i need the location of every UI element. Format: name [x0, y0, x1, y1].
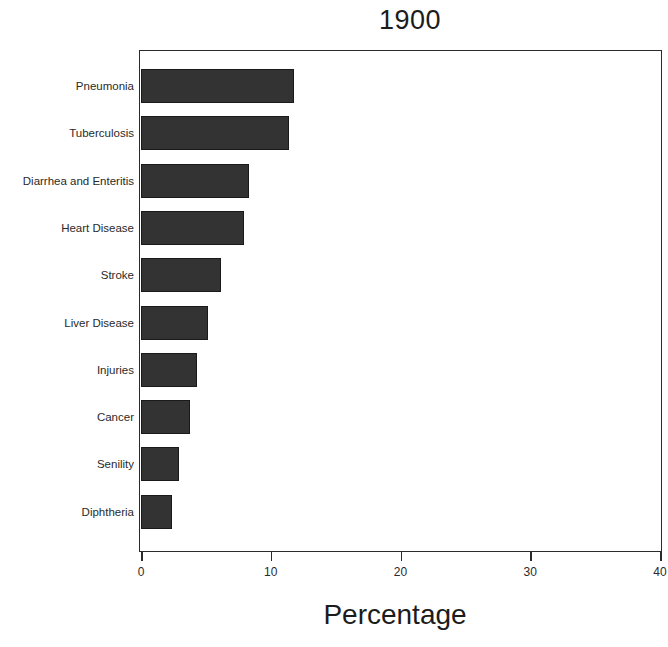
bar-rect: [141, 164, 249, 198]
bar-pneumonia: [141, 69, 660, 103]
bar-rect: [141, 400, 190, 434]
x-axis-title-text: Percentage: [323, 599, 466, 630]
x-tick-mark: [530, 552, 532, 561]
bar-tuberculosis: [141, 116, 660, 150]
x-tick-mark: [271, 552, 273, 561]
x-axis-ticks: 010203040: [0, 552, 668, 592]
x-tick-mark: [660, 552, 662, 561]
x-tick-label: 40: [640, 565, 668, 579]
x-tick-mark: [141, 552, 143, 561]
bar-rect: [141, 495, 172, 529]
bar-rect: [141, 69, 294, 103]
bar-cancer: [141, 400, 660, 434]
chart-title: 1900: [0, 4, 668, 36]
y-axis-label: Cancer: [0, 410, 134, 424]
y-axis-label: Liver Disease: [0, 316, 134, 330]
y-axis-label: Heart Disease: [0, 221, 134, 235]
y-axis-label: Injuries: [0, 363, 134, 377]
bars-layer: [141, 52, 660, 550]
y-axis-label: Stroke: [0, 268, 134, 282]
x-axis-title: Percentage: [0, 598, 668, 632]
x-tick-label: 20: [381, 565, 421, 579]
x-tick-mark: [401, 552, 403, 561]
bar-stroke: [141, 258, 660, 292]
bar-liver-disease: [141, 306, 660, 340]
bar-rect: [141, 306, 208, 340]
bar-rect: [141, 211, 244, 245]
y-axis-label: Senility: [0, 457, 134, 471]
y-axis-label: Diarrhea and Enteritis: [0, 174, 134, 188]
bar-rect: [141, 258, 221, 292]
bar-senility: [141, 447, 660, 481]
y-axis-label: Diphtheria: [0, 505, 134, 519]
bar-rect: [141, 447, 179, 481]
bar-injuries: [141, 353, 660, 387]
y-axis-category-labels: PneumoniaTuberculosisDiarrhea and Enteri…: [0, 52, 134, 550]
bar-heart-disease: [141, 211, 660, 245]
x-tick-label: 30: [510, 565, 550, 579]
bar-rect: [141, 353, 197, 387]
y-axis-label: Pneumonia: [0, 79, 134, 93]
bar-diarrhea-and-enteritis: [141, 164, 660, 198]
x-tick-label: 0: [121, 565, 161, 579]
y-axis-label: Tuberculosis: [0, 126, 134, 140]
chart-title-text: 1900: [379, 5, 441, 35]
bar-diphtheria: [141, 495, 660, 529]
x-tick-label: 10: [251, 565, 291, 579]
bar-rect: [141, 116, 289, 150]
bar-chart: 1900 PneumoniaTuberculosisDiarrhea and E…: [0, 0, 668, 647]
